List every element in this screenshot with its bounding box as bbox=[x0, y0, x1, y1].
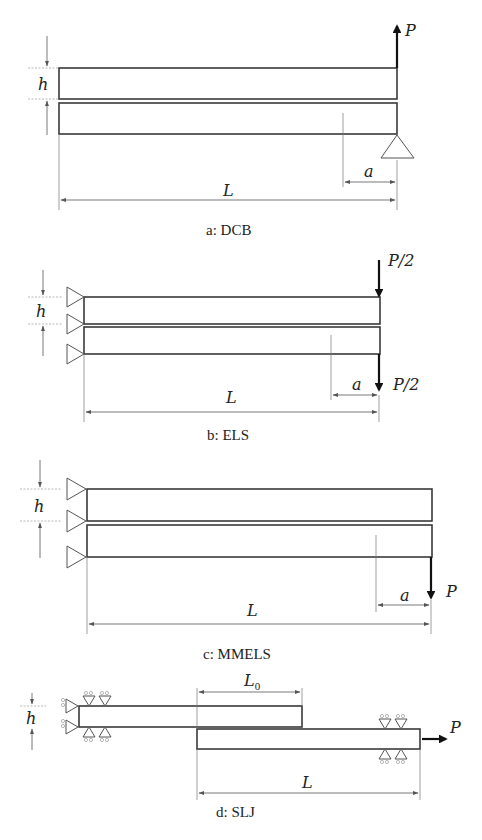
clamp-support-icon bbox=[67, 478, 86, 500]
panel-els: h P/2 P/2 a L b: ELS bbox=[28, 251, 419, 443]
roller-support-icon bbox=[379, 749, 391, 759]
roller-support-icon bbox=[395, 719, 407, 729]
test-configurations-diagram: h P a L a: DCB h P/2 P/2 bbox=[0, 0, 482, 840]
clamp-support-icon bbox=[67, 546, 86, 568]
els-L-label: L bbox=[225, 388, 237, 407]
roller-support-icon bbox=[379, 719, 391, 729]
mmels-caption: c: MMELS bbox=[203, 646, 271, 662]
mmels-h-label: h bbox=[34, 497, 44, 516]
slj-load-label: P bbox=[449, 718, 461, 737]
dcb-lower-beam bbox=[59, 103, 397, 134]
clamp-support-icon bbox=[67, 314, 84, 334]
clamp-support-icon bbox=[66, 720, 78, 734]
els-lower-beam bbox=[84, 327, 380, 354]
roller-support-icon bbox=[99, 696, 111, 706]
els-load-top-label: P/2 bbox=[387, 251, 414, 270]
mmels-load-label: P bbox=[445, 582, 457, 601]
dcb-h-label: h bbox=[38, 75, 48, 94]
els-caption: b: ELS bbox=[207, 427, 249, 443]
dcb-a-label: a bbox=[364, 162, 374, 181]
dcb-caption: a: DCB bbox=[206, 222, 251, 238]
clamp-support-icon bbox=[66, 699, 78, 713]
dcb-L-label: L bbox=[222, 181, 234, 200]
roller-support-icon bbox=[83, 727, 95, 737]
mmels-lower-beam bbox=[87, 525, 432, 557]
slj-L-label: L bbox=[301, 773, 313, 792]
slj-L0-label: L0 bbox=[243, 671, 261, 692]
clamp-support-icon bbox=[67, 344, 84, 364]
mmels-upper-beam bbox=[87, 489, 432, 521]
dcb-load-label: P bbox=[404, 21, 416, 40]
clamp-support-icon bbox=[67, 287, 84, 307]
slj-caption: d: SLJ bbox=[216, 804, 255, 820]
mmels-L-label: L bbox=[246, 601, 258, 620]
dcb-upper-beam bbox=[59, 68, 397, 99]
panel-slj: h P L0 L d: SLJ bbox=[20, 671, 461, 820]
slj-h-label: h bbox=[26, 709, 36, 728]
panel-dcb: h P a L a: DCB bbox=[28, 21, 416, 238]
clamp-support-icon bbox=[67, 510, 86, 532]
els-load-bottom-label: P/2 bbox=[392, 375, 419, 394]
els-h-label: h bbox=[36, 302, 46, 321]
roller-support-icon bbox=[395, 749, 407, 759]
roller-support-icon bbox=[83, 696, 95, 706]
mmels-a-label: a bbox=[400, 586, 410, 605]
slj-lower-adherend bbox=[197, 729, 420, 749]
pin-support-icon bbox=[381, 135, 414, 158]
roller-support-icon bbox=[99, 727, 111, 737]
panel-mmels: h P a L c: MMELS bbox=[20, 460, 457, 662]
els-a-label: a bbox=[352, 375, 362, 394]
els-upper-beam bbox=[84, 297, 380, 324]
slj-upper-adherend bbox=[79, 706, 302, 727]
